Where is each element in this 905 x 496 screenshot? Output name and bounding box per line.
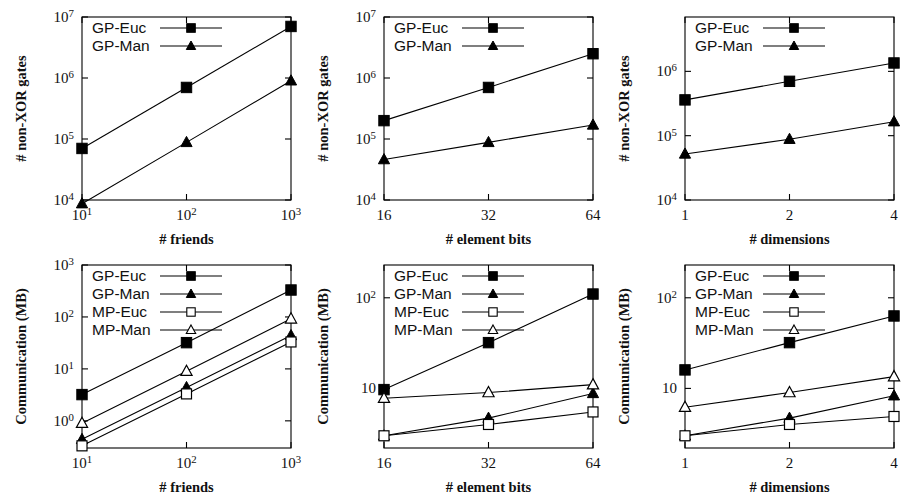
y-axis-label: Communication (MB): [616, 288, 633, 425]
y-tick-label: 105: [54, 129, 74, 147]
series-mp-man: [378, 379, 598, 403]
data-point: [889, 58, 899, 68]
panel-bottom-left: 100101102103101102103GP-EucGP-ManMP-EucM…: [0, 248, 302, 496]
legend: GP-EucGP-ManMP-EucMP-Man: [92, 267, 222, 338]
x-axis-label: # dimensions: [749, 231, 830, 247]
y-tick-label: 104: [54, 190, 75, 208]
legend-marker: [489, 308, 497, 316]
legend-label: GP-Euc: [394, 19, 449, 36]
data-point: [286, 285, 296, 295]
data-point: [379, 431, 389, 441]
series-mp-man: [679, 371, 899, 412]
y-axis-ticks: 100101102103: [54, 255, 291, 429]
data-point: [889, 311, 899, 321]
x-tick-label: 1: [681, 455, 689, 471]
y-tick-label: 107: [356, 7, 377, 25]
data-point: [77, 389, 87, 399]
y-axis-ticks: 104105106107: [54, 7, 291, 208]
y-tick-label: 104: [356, 190, 377, 208]
panel-top-left: 104105106107101102103GP-EucGP-Man# frien…: [0, 0, 302, 248]
data-point: [888, 116, 899, 126]
x-tick-label: 2: [786, 207, 794, 223]
data-point: [181, 82, 191, 92]
legend-label: MP-Man: [695, 321, 754, 338]
legend-label: GP-Man: [394, 37, 452, 54]
legend-marker: [790, 272, 799, 281]
y-tick-label: 10: [361, 380, 376, 396]
legend-label: MP-Man: [394, 321, 453, 338]
data-point: [286, 21, 296, 31]
y-axis-label: # non-XOR gates: [616, 55, 632, 162]
data-point: [588, 407, 598, 417]
y-tick-label: 106: [356, 68, 377, 86]
y-tick-label: 104: [657, 190, 678, 208]
series-gp-euc: [379, 49, 598, 126]
data-point: [784, 76, 794, 86]
y-tick-label: 107: [54, 7, 75, 25]
y-tick-label: 101: [54, 359, 74, 377]
data-point: [181, 365, 192, 375]
legend-marker: [790, 24, 799, 33]
data-point: [181, 337, 191, 347]
y-axis-label: Communication (MB): [13, 288, 30, 425]
data-point: [77, 441, 87, 451]
legend: GP-EucGP-ManMP-EucMP-Man: [394, 267, 524, 338]
legend: GP-EucGP-Man: [394, 19, 524, 54]
legend-label: MP-Euc: [92, 303, 147, 320]
panel-bottom-right: 10102124GP-EucGP-ManMP-EucMP-Man# dimens…: [603, 248, 905, 496]
legend-label: GP-Man: [92, 37, 150, 54]
y-tick-label: 10: [662, 380, 677, 396]
legend-marker: [489, 24, 498, 33]
data-point: [181, 136, 192, 146]
data-point: [680, 431, 690, 441]
y-axis-label: # non-XOR gates: [315, 55, 331, 162]
data-point: [784, 337, 794, 347]
y-tick-label: 105: [657, 126, 677, 144]
y-tick-label: 103: [54, 255, 74, 273]
legend-marker: [187, 272, 196, 281]
y-axis-label: Communication (MB): [315, 288, 332, 425]
series-gp-man: [679, 116, 899, 158]
y-tick-label: 102: [356, 288, 376, 306]
legend-marker: [187, 24, 196, 33]
data-point: [483, 337, 493, 347]
data-point: [785, 419, 795, 429]
data-point: [888, 371, 899, 381]
panel-bottom-left-canvas: 100101102103101102103GP-EucGP-ManMP-EucM…: [0, 248, 302, 496]
legend: GP-EucGP-ManMP-EucMP-Man: [695, 267, 825, 338]
legend-label: MP-Euc: [394, 303, 449, 320]
data-point: [888, 390, 899, 400]
x-tick-label: 32: [481, 207, 496, 223]
y-axis-ticks: 10102: [657, 288, 894, 396]
legend-label: GP-Man: [92, 285, 150, 302]
x-tick-label: 103: [281, 205, 301, 223]
panel-bottom-right-canvas: 10102124GP-EucGP-ManMP-EucMP-Man# dimens…: [603, 248, 905, 496]
data-point: [77, 143, 87, 153]
y-tick-label: 102: [54, 307, 74, 325]
panel-bottom-center: 10102163264GP-EucGP-ManMP-EucMP-Man# ele…: [302, 248, 604, 496]
figure-root: 104105106107101102103GP-EucGP-Man# frien…: [0, 0, 905, 496]
data-point: [285, 75, 296, 85]
legend: GP-EucGP-Man: [695, 19, 825, 54]
series-gp-man: [378, 119, 598, 164]
legend-label: GP-Euc: [695, 267, 750, 284]
x-axis-label: # element bits: [446, 479, 532, 495]
data-point: [680, 95, 690, 105]
x-tick-label: 32: [481, 455, 496, 471]
series-gp-man: [76, 75, 296, 208]
data-point: [182, 389, 192, 399]
data-point: [483, 387, 494, 397]
legend-label: GP-Euc: [92, 19, 147, 36]
panel-top-center: 104105106107163264GP-EucGP-Man# element …: [302, 0, 604, 248]
series-gp-euc: [680, 58, 899, 105]
x-tick-label: 102: [176, 453, 196, 471]
panel-top-right-canvas: 104105106124GP-EucGP-Man# dimensions# no…: [603, 0, 905, 248]
data-point: [484, 419, 494, 429]
data-point: [588, 289, 598, 299]
x-axis-label: # friends: [159, 479, 214, 495]
legend-label: GP-Man: [695, 37, 753, 54]
data-point: [379, 115, 389, 125]
data-point: [76, 417, 87, 427]
legend-label: GP-Euc: [695, 19, 750, 36]
x-tick-label: 2: [786, 455, 794, 471]
